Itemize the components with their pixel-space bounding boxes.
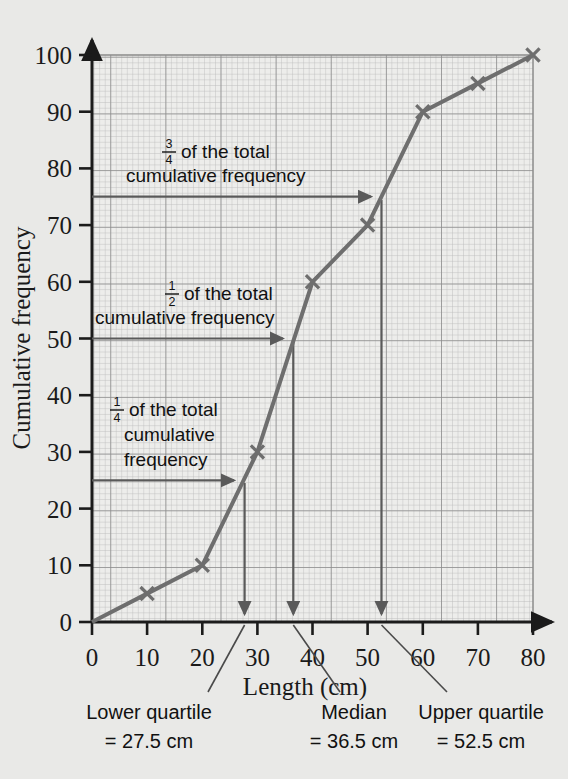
x-tick-40: 40 bbox=[300, 644, 325, 671]
callout-lower-quartile-title: Lower quartile bbox=[86, 701, 212, 723]
callout-median-value: = 36.5 cm bbox=[310, 730, 398, 752]
y-tick-60: 60 bbox=[47, 269, 72, 296]
cumulative-frequency-figure: 100 90 80 70 60 50 40 30 20 10 0 0 10 20… bbox=[0, 0, 568, 779]
lq-annotation-line3: frequency bbox=[124, 449, 208, 470]
y-tick-80: 80 bbox=[47, 155, 72, 182]
x-tick-10: 10 bbox=[135, 644, 160, 671]
lq-fraction-denominator: 4 bbox=[114, 411, 121, 425]
x-tick-30: 30 bbox=[245, 644, 270, 671]
y-tick-0: 0 bbox=[60, 609, 73, 636]
callout-upper-quartile-value: = 52.5 cm bbox=[437, 730, 525, 752]
y-tick-90: 90 bbox=[47, 99, 72, 126]
med-fraction-numerator: 1 bbox=[169, 279, 176, 293]
y-tick-10: 10 bbox=[47, 552, 72, 579]
x-tick-0: 0 bbox=[86, 644, 99, 671]
y-tick-70: 70 bbox=[47, 212, 72, 239]
y-tick-30: 30 bbox=[47, 439, 72, 466]
x-tick-20: 20 bbox=[190, 644, 215, 671]
x-tick-70: 70 bbox=[465, 644, 490, 671]
callout-lower-quartile-value: = 27.5 cm bbox=[105, 730, 193, 752]
callout-median-title: Median bbox=[321, 701, 387, 723]
y-tick-40: 40 bbox=[47, 382, 72, 409]
callout-upper-quartile-title: Upper quartile bbox=[418, 701, 544, 723]
y-tick-50: 50 bbox=[47, 326, 72, 353]
uq-annotation-line1: of the total bbox=[181, 141, 270, 162]
y-axis-title: Cumulative frequency bbox=[8, 226, 35, 449]
x-axis-title: Length (cm) bbox=[243, 673, 367, 701]
x-tick-50: 50 bbox=[355, 644, 380, 671]
uq-fraction-numerator: 3 bbox=[166, 137, 173, 151]
uq-annotation-line2: cumulative frequency bbox=[126, 165, 306, 186]
med-annotation-line2: cumulative frequency bbox=[95, 307, 275, 328]
lq-annotation-line2: cumulative bbox=[124, 424, 215, 445]
y-tick-100: 100 bbox=[35, 42, 73, 69]
chart-svg: 100 90 80 70 60 50 40 30 20 10 0 0 10 20… bbox=[0, 0, 568, 779]
x-tick-80: 80 bbox=[521, 644, 546, 671]
lq-fraction-numerator: 1 bbox=[114, 395, 121, 409]
lq-annotation-line1: of the total bbox=[129, 399, 218, 420]
med-annotation-line1: of the total bbox=[184, 283, 273, 304]
y-tick-20: 20 bbox=[47, 496, 72, 523]
